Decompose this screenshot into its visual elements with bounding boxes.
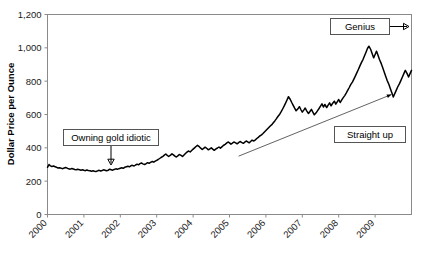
trend-line-arrowhead (386, 95, 391, 98)
chart-canvas: 02004006008001,0001,200 2000200120022003… (0, 0, 423, 256)
y-axis: 02004006008001,0001,200 (18, 9, 48, 220)
x-tick-label: 2000 (26, 217, 49, 240)
y-tick-label: 1,200 (18, 9, 42, 20)
annotation-label-straight-up: Straight up (347, 129, 393, 140)
annotation-straight-up: Straight up (335, 127, 406, 143)
y-tick-label: 400 (26, 142, 42, 153)
annotation-genius: Genius (331, 19, 410, 35)
annotation-label-owning-gold-idiotic: Owning gold idiotic (71, 132, 151, 143)
x-tick-label: 2001 (63, 217, 86, 240)
y-tick-label: 600 (26, 109, 42, 120)
y-tick-label: 1,000 (18, 42, 42, 53)
x-axis: 2000200120022003200420052006200720082009 (26, 215, 376, 240)
x-tick-label: 2009 (354, 217, 377, 240)
y-tick-label: 800 (26, 76, 42, 87)
x-tick-label: 2003 (135, 217, 158, 240)
x-tick-label: 2008 (317, 217, 340, 240)
y-axis-title: Dollar Price per Ounce (5, 63, 16, 165)
trend-line-segment (239, 95, 392, 157)
x-tick-label: 2007 (281, 217, 304, 240)
y-tick-label: 200 (26, 176, 42, 187)
straight-up-trendline (239, 95, 392, 157)
plot-frame (48, 15, 412, 215)
x-tick-label: 2004 (172, 217, 195, 240)
annotation-owning-gold-idiotic: Owning gold idiotic (64, 130, 159, 166)
annotation-label-genius: Genius (345, 21, 375, 32)
x-tick-label: 2005 (208, 217, 231, 240)
x-tick-label: 2006 (245, 217, 268, 240)
gold-price-chart: 02004006008001,0001,200 2000200120022003… (0, 0, 423, 256)
x-tick-label: 2002 (99, 217, 122, 240)
